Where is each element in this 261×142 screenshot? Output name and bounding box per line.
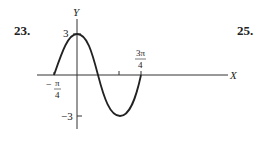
x-right-denominator: 4: [138, 60, 143, 70]
x-axis-label: X: [229, 69, 238, 81]
y-axis-label: Y: [73, 6, 81, 18]
y-min-label: −3: [61, 110, 73, 122]
y-max-label: 3: [63, 27, 69, 39]
x-right-numerator: 3π: [136, 48, 146, 58]
sine-graph: Y X 3 −3 − π 4 3π 4: [0, 0, 261, 142]
x-left-minus: −: [46, 79, 52, 90]
x-left-denominator: 4: [55, 90, 60, 100]
x-left-numerator: π: [55, 78, 60, 88]
